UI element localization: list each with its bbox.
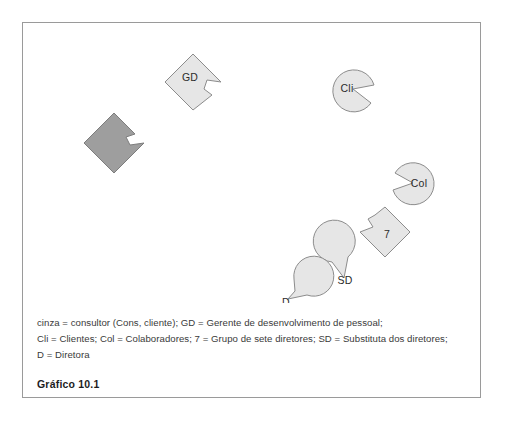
grupo7-label: 7	[384, 228, 390, 240]
node-cli[interactable]: Cli	[333, 70, 374, 112]
gd-label: GD	[182, 71, 198, 83]
node-col[interactable]: Col	[393, 163, 434, 205]
legend-line-2: Cli = Clientes; Col = Colaboradores; 7 =…	[37, 331, 457, 347]
legend-block: cinza = consultor (Cons, cliente); GD = …	[37, 315, 457, 363]
d-label: D	[282, 296, 290, 303]
node-consultor[interactable]	[84, 113, 144, 173]
legend-line-3: D = Diretora	[37, 347, 457, 363]
col-label: Col	[411, 177, 427, 189]
figure-frame: GD Cli Col 7	[22, 22, 481, 398]
consultor-shape	[84, 113, 144, 173]
figure-caption: Gráfico 10.1	[37, 378, 100, 390]
d-shape	[288, 256, 334, 299]
node-gd[interactable]: GD	[165, 54, 221, 110]
cli-label: Cli	[341, 82, 354, 94]
legend-line-1: cinza = consultor (Cons, cliente); GD = …	[37, 315, 457, 331]
node-grupo7[interactable]: 7	[360, 207, 410, 257]
sd-label: SD	[338, 274, 353, 286]
figure-root: GD Cli Col 7	[0, 0, 507, 421]
node-d[interactable]: D	[282, 256, 334, 303]
diagram-canvas: GD Cli Col 7	[23, 23, 482, 303]
